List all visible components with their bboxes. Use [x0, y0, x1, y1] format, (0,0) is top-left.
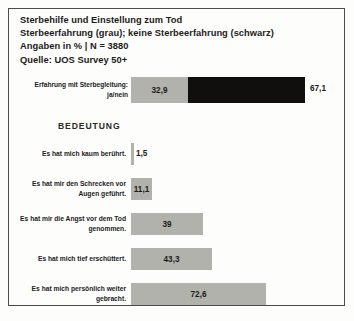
stacked-bar-grey-value: 32,9 — [152, 86, 168, 95]
bar-list: Es hat mich kaum berührt. 1,5 Es hat mir… — [0, 143, 354, 318]
section-heading: BEDEUTUNG — [58, 121, 121, 131]
bar-track: 11,1 — [131, 178, 152, 200]
bar-value: 39 — [162, 220, 171, 229]
bar-label-line1: Es hat mich kaum berührt. — [0, 149, 126, 159]
bar-track: 72,6 — [131, 283, 266, 305]
bar-label-line2: Augen geführt. — [0, 189, 126, 199]
bar-label: Es hat mich kaum berührt. — [0, 143, 126, 159]
bar-value: 11,1 — [134, 185, 149, 194]
bar-fill: 72,6 — [131, 283, 266, 305]
bar-track: 43,3 — [131, 248, 212, 270]
bar-label: Es hat mich persönlich weiter gebracht. — [0, 283, 126, 303]
bar-label-line1: Es hat mir den Schrecken vor — [0, 179, 126, 189]
bar-label-line2: genommen. — [0, 224, 126, 234]
header-block: Sterbehilfe und Einstellung zum Tod Ster… — [20, 14, 320, 67]
bar-label-line2: gebracht. — [0, 294, 126, 304]
bar-label: Es hat mir die Angst vor dem Tod genomme… — [0, 213, 126, 233]
bar-fill: 43,3 — [131, 248, 212, 270]
bar-value: 1,5 — [136, 149, 147, 158]
stacked-bar-label: Erfahrung mit Sterbegleitung: ja/nein — [12, 77, 128, 99]
bar-fill: 11,1 — [131, 178, 152, 200]
bar-value: 43,3 — [164, 255, 180, 264]
bar-label: Es hat mir den Schrecken vor Augen gefüh… — [0, 178, 126, 198]
stacked-bar-segment-black — [188, 77, 305, 103]
bar-row: Es hat mich tief erschüttert. 43,3 — [0, 248, 354, 270]
bar-fill: 39 — [131, 213, 203, 235]
stacked-bar-row: Erfahrung mit Sterbegleitung: ja/nein 32… — [0, 77, 354, 103]
infographic-figure: Sterbehilfe und Einstellung zum Tod Ster… — [0, 0, 354, 321]
bar-track — [131, 143, 134, 165]
bar-label: Es hat mich tief erschüttert. — [0, 248, 126, 264]
bar-row: Es hat mich kaum berührt. 1,5 — [0, 143, 354, 165]
bar-row: Es hat mich persönlich weiter gebracht. … — [0, 283, 354, 305]
chart-title: Sterbehilfe und Einstellung zum Tod — [20, 14, 320, 27]
stacked-bar-black-value: 67,1 — [310, 84, 326, 93]
bar-label-line1: Es hat mich tief erschüttert. — [0, 254, 126, 264]
bar-label-line1: Es hat mir die Angst vor dem Tod — [0, 214, 126, 224]
bar-row: Es hat mir den Schrecken vor Augen gefüh… — [0, 178, 354, 200]
chart-note: Angaben in % | N = 3880 — [20, 40, 320, 53]
stacked-bar-segment-grey: 32,9 — [131, 77, 188, 103]
bar-label-line1: Es hat mich persönlich weiter — [0, 284, 126, 294]
stacked-bar-label-line1: Erfahrung mit Sterbegleitung: — [12, 80, 128, 90]
bar-fill — [131, 143, 134, 165]
bar-track: 39 — [131, 213, 203, 235]
stacked-bar-label-line2: ja/nein — [12, 90, 128, 100]
chart-subtitle: Sterbeerfahrung (grau); keine Sterbeerfa… — [20, 27, 320, 40]
bar-row: Es hat mir die Angst vor dem Tod genomme… — [0, 213, 354, 235]
bar-value: 72,6 — [191, 290, 207, 299]
chart-source: Quelle: UOS Survey 50+ — [20, 54, 320, 67]
stacked-bar: 32,9 — [131, 77, 305, 103]
